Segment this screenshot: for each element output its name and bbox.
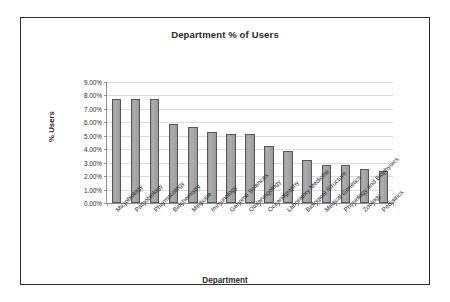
y-tick-label: 6.00%	[84, 119, 102, 126]
chart-title: Department % of Users	[21, 29, 429, 40]
y-tick-label: 1.00%	[84, 186, 102, 193]
y-tick-label: 2.00%	[84, 173, 102, 180]
y-tick-label: 0.00%	[84, 200, 102, 207]
y-tick-label: 3.00%	[84, 159, 102, 166]
y-tick-label: 8.00%	[84, 92, 102, 99]
x-axis-title: Department	[21, 276, 429, 285]
y-tick-label: 7.00%	[84, 105, 102, 112]
bar[interactable]	[112, 99, 122, 203]
x-tick-mark	[107, 203, 108, 206]
screenshot-canvas: Department % of Users % Users 9.00%8.00%…	[0, 0, 450, 302]
y-axis-title: % Users	[47, 97, 56, 157]
y-tick-label: 4.00%	[84, 146, 102, 153]
y-tick-label: 5.00%	[84, 132, 102, 139]
chart-frame: Department % of Users % Users 9.00%8.00%…	[20, 17, 430, 285]
y-tick-label: 9.00%	[84, 79, 102, 86]
